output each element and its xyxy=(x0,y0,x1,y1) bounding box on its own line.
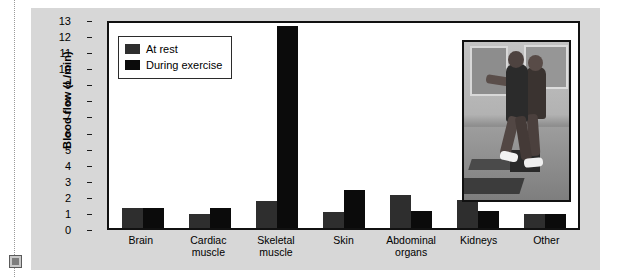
y-tick-label: 6 xyxy=(45,128,71,139)
y-tick-label: 4 xyxy=(45,160,71,171)
exercise-photo-icon xyxy=(462,40,571,202)
page-margin-rule xyxy=(14,0,15,277)
bar[interactable] xyxy=(545,214,566,228)
bar[interactable] xyxy=(478,211,499,228)
x-tick-label: Abdominalorgans xyxy=(377,234,445,258)
y-tick-mark xyxy=(87,198,92,199)
legend-item[interactable]: At rest xyxy=(125,41,222,57)
y-tick-mark xyxy=(87,166,92,167)
bar[interactable] xyxy=(210,208,231,229)
chart-legend: At restDuring exercise xyxy=(118,36,232,79)
y-tick-mark xyxy=(87,214,92,215)
legend-item[interactable]: During exercise xyxy=(125,57,222,73)
y-tick-mark xyxy=(87,101,92,102)
y-tick-mark xyxy=(87,150,92,151)
legend-swatch-icon xyxy=(125,44,140,54)
y-tick-mark xyxy=(87,85,92,86)
y-tick-label: 13 xyxy=(45,16,71,27)
y-tick-label: 11 xyxy=(45,48,71,59)
bar[interactable] xyxy=(277,26,298,228)
y-tick-mark xyxy=(87,134,92,135)
y-tick-mark xyxy=(87,182,92,183)
y-tick-mark xyxy=(87,230,92,231)
y-tick-label: 0 xyxy=(45,225,71,236)
bar[interactable] xyxy=(143,208,164,229)
y-tick-label: 2 xyxy=(45,192,71,203)
bar[interactable] xyxy=(524,214,545,228)
bar-group xyxy=(243,23,310,228)
x-tick-label: Other xyxy=(512,234,580,258)
y-tick-label: 8 xyxy=(45,96,71,107)
bar-group xyxy=(310,23,377,228)
figure-panel: Blood flow (L/min) 131211109876543210 At… xyxy=(31,8,600,270)
bar[interactable] xyxy=(189,214,210,228)
y-tick-mark xyxy=(87,53,92,54)
y-tick-mark xyxy=(87,37,92,38)
bar[interactable] xyxy=(256,201,277,228)
bar[interactable] xyxy=(344,190,365,228)
y-tick-label: 1 xyxy=(45,208,71,219)
margin-handle[interactable] xyxy=(9,255,22,268)
y-axis-ticks: 131211109876543210 xyxy=(45,15,71,230)
y-tick-mark xyxy=(87,69,92,70)
x-tick-label: Kidneys xyxy=(445,234,513,258)
plot-area: At restDuring exercise xyxy=(107,21,580,230)
x-tick-label: Skin xyxy=(310,234,378,258)
y-tick-mark xyxy=(87,21,92,22)
legend-label: During exercise xyxy=(146,59,222,71)
bar[interactable] xyxy=(390,195,411,228)
y-tick-label: 3 xyxy=(45,176,71,187)
legend-swatch-icon xyxy=(125,60,140,70)
bar-group xyxy=(377,23,444,228)
y-tick-label: 7 xyxy=(45,112,71,123)
bar[interactable] xyxy=(122,208,143,229)
x-axis-labels: BrainCardiacmuscleSkeletalmuscleSkinAbdo… xyxy=(107,234,580,258)
y-tick-label: 5 xyxy=(45,144,71,155)
y-tick-label: 10 xyxy=(45,64,71,75)
y-tick-label: 9 xyxy=(45,80,71,91)
y-tick-mark xyxy=(87,117,92,118)
x-tick-label: Brain xyxy=(107,234,175,258)
x-tick-label: Skeletalmuscle xyxy=(242,234,310,258)
bar[interactable] xyxy=(411,211,432,228)
bar[interactable] xyxy=(323,212,344,228)
bar[interactable] xyxy=(457,200,478,228)
legend-label: At rest xyxy=(146,43,178,55)
y-tick-label: 12 xyxy=(45,32,71,43)
x-tick-label: Cardiacmuscle xyxy=(175,234,243,258)
